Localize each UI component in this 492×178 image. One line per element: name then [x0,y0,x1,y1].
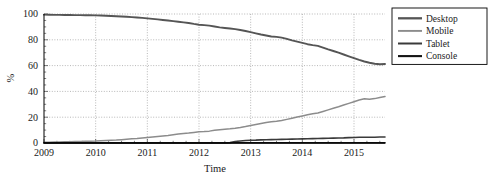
y-tick-label: 60 [28,60,38,71]
series-line-mobile [44,97,385,143]
legend-label-mobile: Mobile [426,26,453,36]
minor-ticks [44,14,380,143]
y-tick-label: 20 [28,112,38,123]
legend-label-desktop: Desktop [426,14,458,24]
y-tick-label: 40 [28,86,38,97]
x-tick-label: 2013 [241,147,261,158]
series-lines [44,15,385,143]
y-tick-label: 80 [28,34,38,45]
x-tick-label: 2012 [189,147,209,158]
series-line-desktop [44,15,385,65]
x-axis-tick-labels: 2009201020112012201320142015 [34,147,364,158]
x-tick-label: 2009 [34,147,54,158]
x-tick-label: 2010 [86,147,106,158]
grid-lines [44,14,385,143]
x-tick-label: 2014 [292,147,312,158]
x-tick-label: 2011 [138,147,158,158]
legend-label-tablet: Tablet [426,39,450,49]
y-tick-label: 100 [23,8,38,19]
plot-axes [44,14,385,143]
legend-label-console: Console [426,51,457,61]
y-axis-title: % [5,73,16,82]
x-axis-title: Time [204,163,226,174]
x-tick-label: 2015 [344,147,364,158]
line-chart: 020406080100 200920102011201220132014201… [0,0,492,178]
y-axis-tick-labels: 020406080100 [23,8,38,148]
chart-figure: 020406080100 200920102011201220132014201… [0,0,492,178]
chart-legend: DesktopMobileTabletConsole [392,8,487,64]
